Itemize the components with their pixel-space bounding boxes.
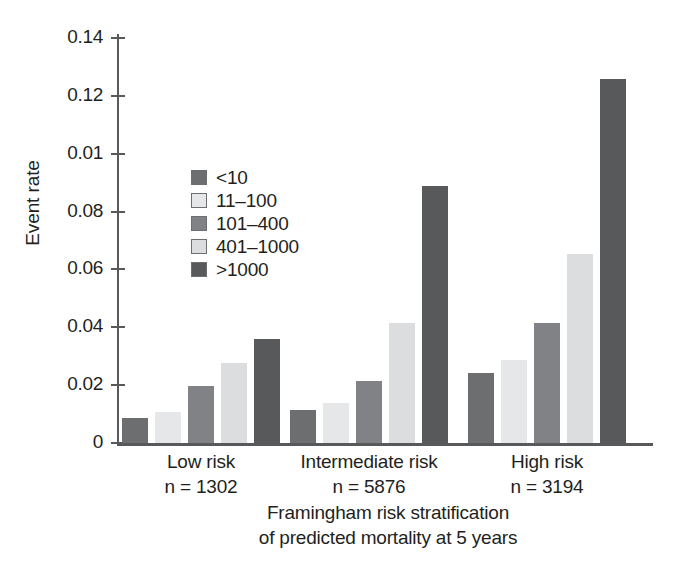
x-axis-title-line-1: Framingham risk stratification — [118, 500, 658, 525]
bar — [468, 373, 494, 443]
y-axis-tick-label: 0.02 — [33, 373, 103, 395]
legend-item-label: 101–400 — [216, 214, 289, 233]
legend-item-label: <10 — [216, 168, 248, 187]
legend-swatch-icon — [191, 262, 207, 277]
bar — [221, 363, 247, 443]
legend-swatch-icon — [191, 239, 207, 254]
legend-item: >1000 — [191, 258, 299, 281]
bar — [290, 410, 316, 443]
bar — [534, 323, 560, 443]
bar — [501, 360, 527, 443]
legend-item-label: 401–1000 — [216, 237, 299, 256]
bar — [356, 381, 382, 443]
y-axis-tick-label: 0.08 — [33, 200, 103, 222]
chart-legend: <1011–100101–400401–1000>1000 — [191, 166, 299, 281]
bar — [422, 186, 448, 443]
bar — [155, 412, 181, 443]
legend-item-label: 11–100 — [216, 191, 277, 210]
y-axis-tick-label: 0.06 — [33, 257, 103, 279]
bar — [254, 339, 280, 443]
legend-item: 101–400 — [191, 212, 299, 235]
bar — [188, 386, 214, 443]
legend-item: <10 — [191, 166, 299, 189]
bar — [323, 403, 349, 443]
bar — [122, 418, 148, 443]
x-axis-group-name: High risk — [437, 449, 657, 474]
x-axis-title-line-2: of predicted mortality at 5 years — [118, 525, 658, 550]
x-axis-group-label: High riskn = 3194 — [437, 449, 657, 499]
x-axis-line — [117, 443, 653, 446]
y-axis-tick-label: 0.04 — [33, 315, 103, 337]
y-axis-tick-label: 0.14 — [33, 26, 103, 48]
legend-item: 11–100 — [191, 189, 299, 212]
legend-swatch-icon — [191, 170, 207, 185]
legend-item: 401–1000 — [191, 235, 299, 258]
x-axis-group-count: n = 3194 — [437, 474, 657, 499]
x-axis-title: Framingham risk stratification of predic… — [118, 500, 658, 550]
y-axis-tick-label: 0.12 — [33, 84, 103, 106]
legend-item-label: >1000 — [216, 260, 268, 279]
bar — [389, 323, 415, 443]
legend-swatch-icon — [191, 216, 207, 231]
legend-swatch-icon — [191, 193, 207, 208]
bar — [567, 254, 593, 443]
y-axis-tick-label: 0.01 — [33, 142, 103, 164]
bar — [600, 79, 626, 443]
bar-chart-figure: Event rate 00.020.040.060.080.010.120.14… — [0, 0, 678, 571]
